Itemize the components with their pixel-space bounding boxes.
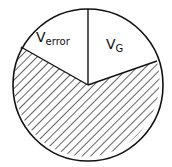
- label-v-error: Verror: [36, 30, 70, 44]
- label-sub: error: [46, 36, 70, 47]
- label-sub: G: [116, 43, 124, 54]
- label-v-g: VG: [106, 37, 123, 51]
- label-main: V: [106, 36, 116, 52]
- pie-chart: [0, 0, 172, 167]
- label-main: V: [36, 29, 46, 45]
